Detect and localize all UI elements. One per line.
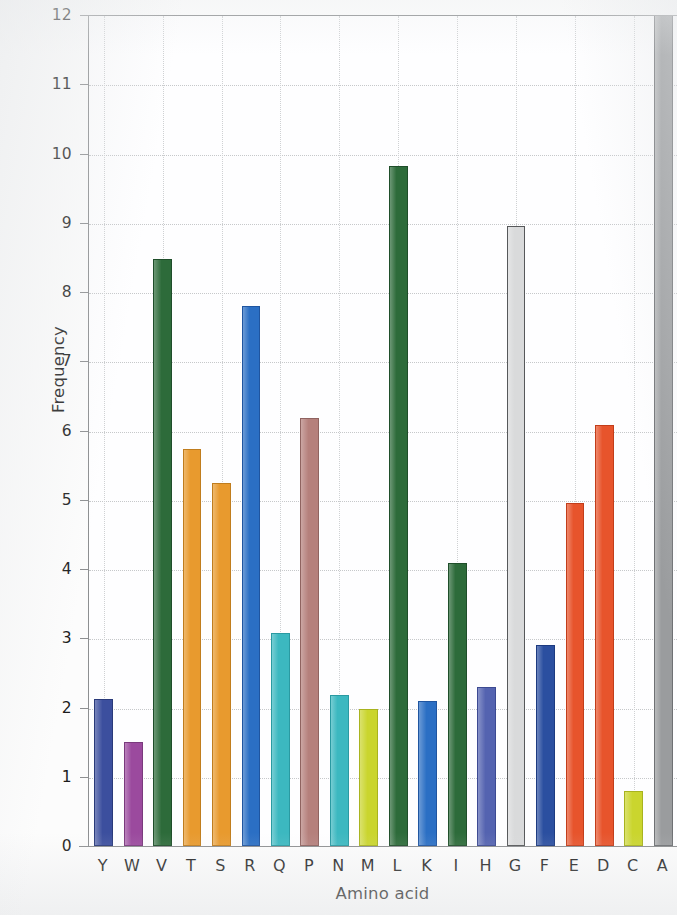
x-tick-label-s: S (206, 856, 235, 875)
y-tick-label: 10 (0, 145, 72, 163)
y-tick-label-wrap: 4 (0, 560, 72, 578)
y-tick-label: 12 (0, 6, 72, 24)
bar-q (271, 633, 290, 846)
bar-l (389, 166, 408, 846)
bar-fill (331, 696, 348, 845)
plot-area (88, 15, 677, 846)
bar-c (624, 791, 643, 846)
x-tick-label-r: R (235, 856, 264, 875)
bar-fill (596, 426, 613, 845)
y-tick-label: 5 (0, 491, 72, 509)
y-tick-label-wrap: 10 (0, 145, 72, 163)
y-tick-label: 3 (0, 629, 72, 647)
bar-d (595, 425, 614, 846)
y-tick-label-wrap: 11 (0, 75, 72, 93)
bar-w (124, 742, 143, 846)
bar-fill (625, 792, 642, 845)
bar-fill (567, 504, 584, 845)
bar-y (94, 699, 113, 846)
x-tick-label-t: T (176, 856, 205, 875)
y-tick-mark (80, 431, 88, 432)
bar-h (477, 687, 496, 846)
plot-inner (89, 16, 677, 846)
x-tick-label-y: Y (88, 856, 117, 875)
y-tick-label: 4 (0, 560, 72, 578)
y-tick-label: 1 (0, 768, 72, 786)
y-tick-label: 8 (0, 283, 72, 301)
y-tick-mark (80, 708, 88, 709)
y-tick-mark (80, 84, 88, 85)
y-tick-label-wrap: 9 (0, 214, 72, 232)
y-axis-line (88, 15, 89, 847)
y-tick-mark (80, 292, 88, 293)
y-tick-label-wrap: 1 (0, 768, 72, 786)
bar-v (153, 259, 172, 846)
gridline-horizontal (89, 432, 677, 433)
bar-fill (449, 564, 466, 845)
y-tick-mark (80, 500, 88, 501)
x-tick-label-k: K (412, 856, 441, 875)
bar-t (183, 449, 202, 846)
gridline-horizontal (89, 501, 677, 502)
y-tick-mark (80, 15, 88, 16)
bar-fill (184, 450, 201, 845)
x-tick-label-w: W (117, 856, 146, 875)
x-tick-label-n: N (324, 856, 353, 875)
gridline-horizontal (89, 639, 677, 640)
y-tick-mark (80, 154, 88, 155)
bar-fill (272, 634, 289, 845)
x-tick-label-m: M (353, 856, 382, 875)
y-tick-label-wrap: 5 (0, 491, 72, 509)
gridline-vertical (634, 16, 635, 846)
gridline-horizontal (89, 224, 677, 225)
y-tick-label-wrap: 2 (0, 699, 72, 717)
bar-fill (655, 16, 672, 845)
gridline-horizontal (89, 570, 677, 571)
bar-s (212, 483, 231, 846)
bar-fill (390, 167, 407, 845)
y-tick-label-wrap: 3 (0, 629, 72, 647)
y-tick-mark (80, 223, 88, 224)
bar-k (418, 701, 437, 846)
bar-a (654, 16, 673, 846)
y-tick-mark (80, 361, 88, 362)
y-tick-label: 0 (0, 837, 72, 855)
bar-n (330, 695, 349, 846)
x-tick-label-g: G (500, 856, 529, 875)
x-tick-label-a: A (648, 856, 677, 875)
bar-fill (537, 646, 554, 845)
y-tick-label: 9 (0, 214, 72, 232)
bar-f (536, 645, 555, 846)
bar-fill (360, 710, 377, 845)
x-tick-label-f: F (530, 856, 559, 875)
bar-fill (419, 702, 436, 845)
y-tick-mark (80, 638, 88, 639)
bar-m (359, 709, 378, 846)
gridline-horizontal (89, 155, 677, 156)
bar-fill (154, 260, 171, 845)
bar-fill (243, 307, 260, 845)
gridline-horizontal (89, 778, 677, 779)
y-axis-title: Frequency (49, 305, 68, 435)
x-tick-label-q: Q (265, 856, 294, 875)
y-tick-mark (80, 846, 88, 847)
x-tick-label-c: C (618, 856, 647, 875)
gridline-horizontal (89, 362, 677, 363)
y-tick-mark (80, 569, 88, 570)
x-tick-label-v: V (147, 856, 176, 875)
y-tick-label: 11 (0, 75, 72, 93)
bar-r (242, 306, 261, 846)
gridline-horizontal (89, 85, 677, 86)
gridline-horizontal (89, 293, 677, 294)
bar-fill (95, 700, 112, 845)
bar-fill (508, 227, 525, 845)
bar-g (507, 226, 526, 846)
bar-e (566, 503, 585, 846)
x-tick-label-e: E (559, 856, 588, 875)
bar-fill (213, 484, 230, 845)
x-tick-label-h: H (471, 856, 500, 875)
x-tick-label-d: D (589, 856, 618, 875)
x-tick-label-l: L (383, 856, 412, 875)
bar-i (448, 563, 467, 846)
y-tick-label-wrap: 8 (0, 283, 72, 301)
